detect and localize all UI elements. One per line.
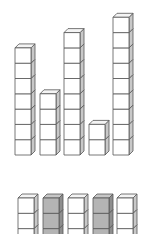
cube-front-face (15, 79, 31, 94)
cube-front-face (64, 79, 80, 94)
cube-top-face (93, 194, 113, 198)
cube-front-face (64, 33, 80, 48)
cube (113, 13, 133, 32)
cube-top-face (18, 194, 38, 198)
cube-top-face (113, 13, 133, 17)
cube (89, 120, 109, 139)
cube-front-face (89, 140, 105, 155)
cube (68, 194, 88, 213)
cube-front-face (43, 198, 59, 213)
cube-front-face (113, 63, 129, 78)
cube-front-face (64, 48, 80, 63)
cube-front-face (68, 198, 84, 213)
cube-front-face (15, 124, 31, 139)
tower-4-2-cubes (89, 120, 109, 155)
cube-front-face (40, 124, 56, 139)
cube-front-face (43, 213, 59, 228)
cube (117, 194, 137, 213)
cube-front-face (15, 94, 31, 109)
cube-front-face (64, 140, 80, 155)
bottom-tower-4-gray (93, 194, 113, 234)
cube-front-face (43, 229, 59, 234)
cube (43, 194, 63, 213)
cube-front-face (40, 109, 56, 124)
cube-front-face (18, 198, 34, 213)
cube-front-face (68, 213, 84, 228)
cube-front-face (18, 229, 34, 234)
cube-top-face (15, 44, 35, 48)
cube-towers-diagram (0, 0, 147, 234)
cube-front-face (64, 94, 80, 109)
cube-front-face (40, 140, 56, 155)
cube-top-face (43, 194, 63, 198)
cube (18, 194, 38, 213)
cube-front-face (93, 198, 109, 213)
cube-front-face (15, 109, 31, 124)
cube-front-face (117, 198, 133, 213)
bottom-tower-3-white (68, 194, 88, 234)
bottom-tower-1-white (18, 194, 38, 234)
cube-front-face (15, 48, 31, 63)
cube (40, 90, 60, 109)
cube-front-face (113, 33, 129, 48)
cube-top-face (68, 194, 88, 198)
cube-front-face (93, 213, 109, 228)
cube-top-face (117, 194, 137, 198)
cube-front-face (117, 213, 133, 228)
bottom-tower-2-gray (43, 194, 63, 234)
cube-front-face (15, 140, 31, 155)
cube-top-face (64, 29, 84, 33)
cube-front-face (113, 48, 129, 63)
cube-front-face (15, 63, 31, 78)
bottom-row-towers (18, 194, 137, 234)
cube-front-face (113, 109, 129, 124)
bottom-tower-5-white (117, 194, 137, 234)
cube-front-face (113, 79, 129, 94)
cube-front-face (68, 229, 84, 234)
cube-front-face (113, 124, 129, 139)
cube (93, 194, 113, 213)
top-row-towers (15, 13, 133, 155)
cube-front-face (89, 124, 105, 139)
cube-front-face (113, 94, 129, 109)
cube-front-face (117, 229, 133, 234)
cube-top-face (40, 90, 60, 94)
cube-top-face (89, 120, 109, 124)
cube-front-face (64, 63, 80, 78)
cube-front-face (64, 109, 80, 124)
tower-2-4-cubes (40, 90, 60, 155)
tower-5-9-cubes (113, 13, 133, 155)
cube-front-face (18, 213, 34, 228)
cube-front-face (93, 229, 109, 234)
cube-front-face (113, 140, 129, 155)
cube-front-face (40, 94, 56, 109)
tower-1-7-cubes (15, 44, 35, 155)
cube-front-face (113, 17, 129, 32)
cube-front-face (64, 124, 80, 139)
cube (64, 29, 84, 48)
cube (15, 44, 35, 63)
tower-3-8-cubes (64, 29, 84, 155)
